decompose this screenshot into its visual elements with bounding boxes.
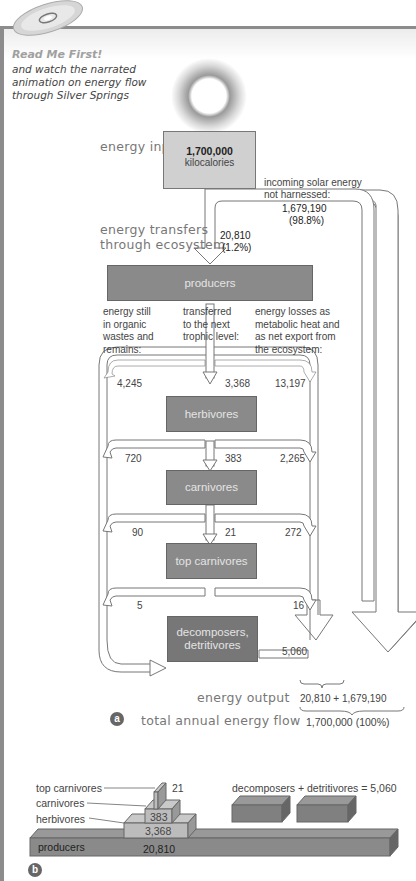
- pyramid-top-carnivores-label: top carnivores: [36, 782, 102, 794]
- panel-b-marker: b: [28, 863, 42, 877]
- pyramid-herbivores-value: 3,368: [145, 825, 171, 837]
- pyramid-producers-label: producers: [38, 841, 85, 853]
- pyramid-herbivores-label: herbivores: [36, 813, 85, 825]
- pyramid-carnivores-value: 383: [150, 811, 168, 823]
- pyramid-carnivores-label: carnivores: [36, 797, 84, 809]
- energy-pyramid: [0, 0, 416, 881]
- pyramid-top-carnivores-value: 21: [172, 782, 184, 794]
- pyramid-producers-value: 20,810: [143, 843, 175, 855]
- pyramid-decomposers-label: decomposers + detritivores = 5,060: [232, 782, 397, 794]
